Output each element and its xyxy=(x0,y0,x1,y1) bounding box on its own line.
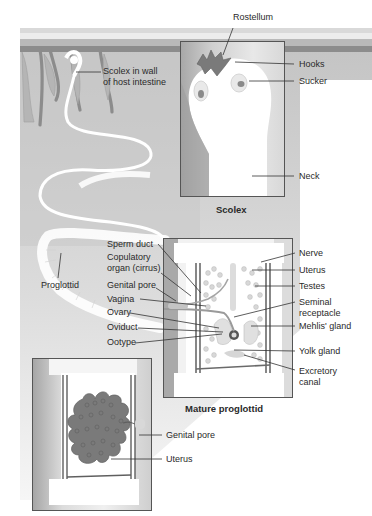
label-uterus-gravid: Uterus xyxy=(166,454,193,465)
label-genital-pore-gravid: Genital pore xyxy=(166,430,215,441)
tapeworm-diagram: Scolex in wall of host intestine Proglot… xyxy=(0,0,372,516)
